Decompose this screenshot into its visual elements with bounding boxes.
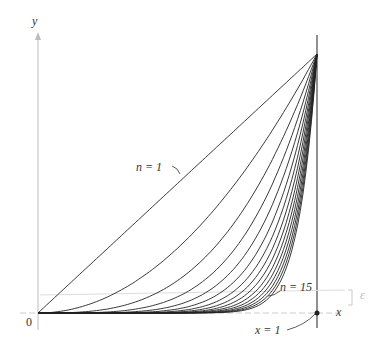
- curve-family: [38, 54, 317, 313]
- epsilon-label: ε: [360, 288, 365, 303]
- point-x1: [315, 311, 320, 316]
- origin-label: 0: [26, 315, 32, 330]
- x-axis-label: x: [336, 305, 341, 320]
- x1-label: x = 1: [255, 323, 280, 338]
- x1-leader: [287, 314, 315, 330]
- y-axis-label: y: [32, 14, 37, 29]
- epsilon-bracket: [348, 290, 352, 305]
- curve-n1: [38, 54, 317, 313]
- plot-area: [0, 0, 391, 353]
- y-axis-arrow-icon: [35, 32, 41, 40]
- n1-leader: [172, 166, 180, 174]
- n15-label: n = 15: [280, 280, 312, 295]
- chart: y x 0 n = 1 n = 15 x = 1 ε: [0, 0, 391, 353]
- n1-label: n = 1: [136, 160, 162, 175]
